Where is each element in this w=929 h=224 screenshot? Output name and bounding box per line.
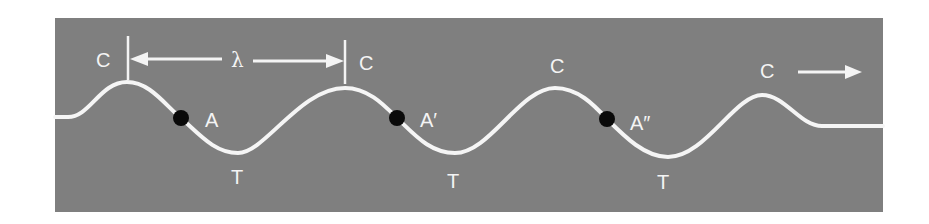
wave-diagram: C λ C C C A A′ A″ T T T [0,0,929,224]
crest-label-1: C [96,49,110,71]
point-a-double-prime-dot [599,111,615,127]
trough-label-1: T [231,166,243,188]
point-a-double-prime-label: A″ [630,112,650,134]
trough-label-2: T [447,170,459,192]
crest-label-3: C [550,55,564,77]
wavelength-label: λ [231,48,244,72]
point-a-prime-label: A′ [420,109,437,131]
crest-label-2: C [359,52,373,74]
crest-label-4: C [760,60,774,82]
point-a-dot [173,110,189,126]
point-a-label: A [205,109,219,131]
point-a-prime-dot [389,110,405,126]
trough-label-3: T [657,171,669,193]
